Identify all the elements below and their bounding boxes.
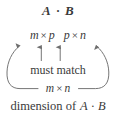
operand-dimensions-row: m×pp×n: [0, 28, 116, 43]
right-times-symbol: ×: [70, 29, 80, 41]
left-matrix-dimensions: m×p: [30, 28, 55, 43]
result-rows-symbol: m: [46, 82, 54, 94]
right-matrix-symbol: B: [65, 3, 74, 18]
left-times-symbol: ×: [39, 29, 49, 41]
bottom-caption-operator: ·: [88, 99, 98, 113]
product-operator-symbol: ·: [51, 4, 65, 18]
right-rows-symbol: p: [64, 28, 70, 42]
bottom-caption-left-matrix: A: [76, 99, 88, 113]
bottom-caption: dimension ofA·B: [0, 99, 116, 114]
left-matrix-symbol: A: [42, 3, 51, 18]
left-rows-symbol: m: [30, 28, 39, 42]
right-cols-symbol: n: [80, 28, 86, 42]
bottom-caption-right-matrix: B: [98, 99, 106, 113]
must-match-label: must match: [0, 63, 116, 78]
result-cols-symbol: n: [64, 82, 70, 94]
matrix-dimension-diagram: A·B m×pp×n must match m×n: [0, 0, 116, 119]
bottom-caption-prefix: dimension of: [10, 99, 76, 113]
right-matrix-dimensions: p×n: [64, 28, 86, 43]
result-dimensions-label: m×n: [0, 82, 116, 94]
result-times-symbol: ×: [54, 82, 64, 94]
left-cols-symbol: p: [49, 28, 55, 42]
matrix-product-title: A·B: [0, 3, 116, 19]
